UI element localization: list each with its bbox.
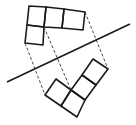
original-shape xyxy=(25,6,85,45)
original-square xyxy=(27,6,46,27)
reflected-square xyxy=(45,79,71,106)
original-square xyxy=(25,25,44,45)
reflected-square xyxy=(82,59,108,85)
original-square xyxy=(62,9,85,30)
reflected-square xyxy=(61,90,85,117)
reflected-square xyxy=(71,75,96,100)
original-square xyxy=(44,7,64,28)
reflection-diagram xyxy=(0,0,136,125)
reflected-shape xyxy=(45,59,108,117)
